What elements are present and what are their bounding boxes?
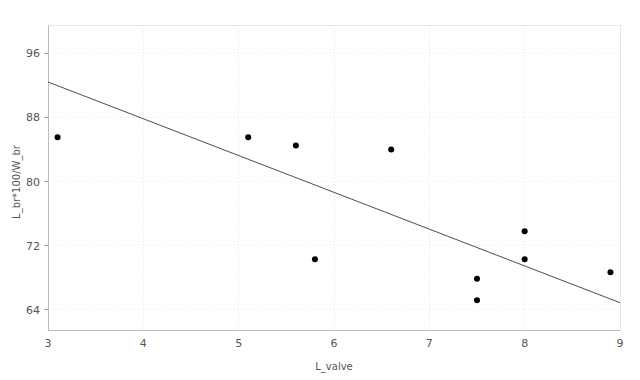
xtick-label-7: 7 [426,337,433,350]
ytick-label-72: 72 [26,240,40,253]
data-point [293,142,299,148]
y-axis-title: L_br*100/W_br [11,144,23,219]
data-point [245,134,251,140]
xtick-label-5: 5 [235,337,242,350]
xtick-label-6: 6 [331,337,338,350]
xtick-label-4: 4 [140,337,147,350]
data-point [388,146,394,152]
chart-figure: 3456789 6472808896 L_valve L_br*100/W_br [0,0,640,380]
xtick-label-9: 9 [617,337,624,350]
data-point [607,269,613,275]
data-point [522,256,528,262]
xtick-label-8: 8 [521,337,528,350]
scatter-plot-svg: 3456789 6472808896 L_valve L_br*100/W_br [0,0,640,380]
footer-ghost-text [8,372,628,380]
data-point [55,134,61,140]
ytick-label-88: 88 [26,111,40,124]
xtick-label-3: 3 [45,337,52,350]
ytick-label-80: 80 [26,176,40,189]
data-point [474,276,480,282]
data-point [312,256,318,262]
data-point [474,297,480,303]
data-point [522,228,528,234]
plot-background [0,0,640,380]
ytick-label-64: 64 [26,304,40,317]
ytick-label-96: 96 [26,47,40,60]
